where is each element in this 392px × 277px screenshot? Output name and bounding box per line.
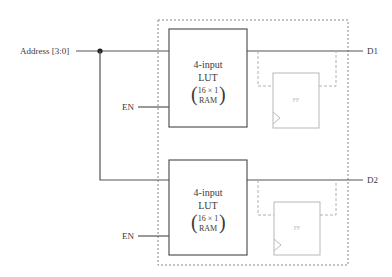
lut-2-line4: RAM	[199, 224, 217, 233]
lut-1-line1: 4-input	[194, 59, 223, 70]
ff-2-loop-right	[320, 180, 336, 215]
lut-ram-diagram: Address [3:0] 4-input LUT ( 16 × 1 RAM )…	[0, 0, 392, 277]
ff-1-loop-right	[319, 51, 336, 86]
lut-1-paren-right: )	[219, 83, 226, 106]
ff-1-loop-left	[258, 51, 273, 86]
ff-1-label: FF	[293, 97, 300, 103]
address-wire-2	[100, 51, 169, 180]
en-1-label: EN	[122, 102, 134, 112]
lut-2-line3: 16 × 1	[198, 214, 219, 223]
en-2-label: EN	[122, 231, 134, 241]
lut-1-line2: LUT	[198, 72, 217, 83]
d2-label: D2	[367, 175, 378, 185]
lut-2-line1: 4-input	[194, 187, 223, 198]
address-label: Address [3:0]	[20, 46, 69, 56]
lut-2-line2: LUT	[198, 200, 217, 211]
ff-2-label: FF	[294, 225, 301, 231]
lut-1-line3: 16 × 1	[198, 86, 219, 95]
ff-2-loop-left	[258, 180, 274, 215]
lut-1-line4: RAM	[199, 96, 217, 105]
d1-label: D1	[367, 46, 378, 56]
lut-2-paren-right: )	[219, 211, 226, 234]
